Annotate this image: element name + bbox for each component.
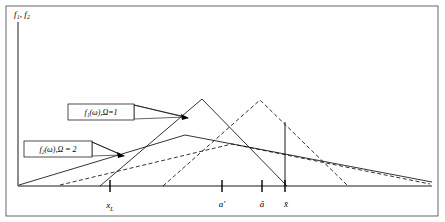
callout-f1-arrowhead — [181, 114, 189, 120]
curve-f1-dashed — [163, 100, 348, 186]
membership-function-chart: xL aʹ â x̄ f₁, f₂ f₁(ω),Ω=1 f₂(ω),Ω = 2 — [0, 0, 445, 222]
callout-f2-arrowhead — [117, 152, 125, 158]
callout-f1-text: f₁(ω),Ω=1 — [84, 108, 117, 117]
tick-label-x-sub-L: xL — [105, 200, 114, 212]
tick-label-a-prime: aʹ — [219, 199, 227, 209]
curve-f2-dashed — [60, 144, 430, 185]
y-axis-label: f₁, f₂ — [14, 9, 30, 19]
tick-label-a-hat: â — [260, 199, 265, 209]
callout-f2-text: f₂(ω),Ω = 2 — [39, 145, 76, 154]
tick-label-x-bar: x̄ — [283, 199, 289, 209]
figure-container: xL aʹ â x̄ f₁, f₂ f₁(ω),Ω=1 f₂(ω),Ω = 2 — [0, 0, 445, 222]
callout-f2: f₂(ω),Ω = 2 — [24, 141, 125, 158]
x-axis-tick-labels: xL aʹ â x̄ — [105, 199, 288, 212]
callout-f1: f₁(ω),Ω=1 — [68, 104, 189, 120]
